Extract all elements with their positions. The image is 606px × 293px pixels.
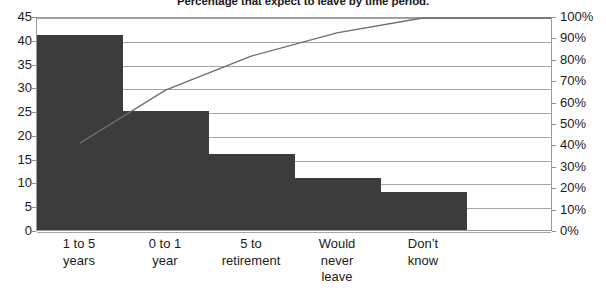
y-axis-left-tick-label: 20 — [18, 129, 32, 142]
y-axis-left-tick-label: 35 — [18, 58, 32, 71]
x-axis-category-label: Wouldneverleave — [294, 236, 380, 291]
y-axis-left-tick-label: 40 — [18, 34, 32, 47]
y-axis-right-tick — [552, 103, 556, 104]
y-axis-right-tick-label: 70% — [560, 74, 586, 87]
x-axis-category-label-line: leave — [296, 269, 378, 286]
x-axis-category-label-line: 0 to 1 — [124, 236, 206, 253]
x-axis-category-label-line: never — [296, 253, 378, 270]
x-axis-category-label — [466, 236, 552, 291]
y-axis-right-tick-label: 0% — [560, 224, 579, 237]
y-axis-left-tick-label: 0 — [25, 224, 32, 237]
y-axis-left-tick — [32, 136, 36, 137]
y-axis-left-tick — [32, 207, 36, 208]
y-axis-left-tick-label: 10 — [18, 176, 32, 189]
y-axis-right-tick-label: 80% — [560, 53, 586, 66]
y-axis-left-tick-label: 15 — [18, 153, 32, 166]
y-axis-right-tick — [552, 167, 556, 168]
y-axis-left-tick-label: 45 — [18, 10, 32, 23]
y-axis-right-tick-label: 60% — [560, 96, 586, 109]
bar — [37, 35, 123, 230]
y-axis-left-tick — [32, 183, 36, 184]
y-axis-right-tick-label: 20% — [560, 181, 586, 194]
y-axis-right-tick — [552, 38, 556, 39]
y-axis-left-tick-label: 30 — [18, 81, 32, 94]
x-axis-category-label-line: Would — [296, 236, 378, 253]
x-axis-category-label-line: Don’t — [382, 236, 464, 253]
y-axis-left-tick — [32, 112, 36, 113]
y-axis-right-tick — [552, 210, 556, 211]
x-axis-category-labels: 1 to 5years0 to 1year5 toretirementWould… — [36, 236, 552, 291]
y-axis-left-tick — [32, 160, 36, 161]
gridline — [37, 232, 551, 233]
y-axis-right-tick-label: 90% — [560, 31, 586, 44]
y-axis-right-tick — [552, 188, 556, 189]
x-axis-category-label-line: know — [382, 253, 464, 270]
x-axis-category-label: 0 to 1year — [122, 236, 208, 291]
y-axis-left-tick — [32, 17, 36, 18]
y-axis-right-tick-label: 100% — [560, 10, 593, 23]
y-axis-right-tick — [552, 60, 556, 61]
chart-title: Percentage that expect to leave by time … — [0, 0, 606, 7]
y-axis-left-tick — [32, 231, 36, 232]
y-axis-right-tick-label: 50% — [560, 117, 586, 130]
y-axis-right-tick — [552, 17, 556, 18]
x-axis-category-label: 5 toretirement — [208, 236, 294, 291]
y-axis-right-tick-label: 30% — [560, 160, 586, 173]
x-axis-category-label: Don’tknow — [380, 236, 466, 291]
x-axis-category-label-line: 1 to 5 — [38, 236, 120, 253]
x-axis-category-label: 1 to 5years — [36, 236, 122, 291]
y-axis-left-tick — [32, 41, 36, 42]
x-axis-category-label-line: retirement — [210, 253, 292, 270]
bar — [123, 111, 209, 230]
plot-area — [36, 17, 552, 231]
chart-container: Percentage that expect to leave by time … — [0, 0, 606, 293]
y-axis-left-tick-label: 5 — [25, 200, 32, 213]
y-axis-left-tick-label: 25 — [18, 105, 32, 118]
y-axis-right-tick-label: 10% — [560, 203, 586, 216]
y-axis-right-tick — [552, 81, 556, 82]
bar — [295, 178, 381, 230]
y-axis-right-tick — [552, 124, 556, 125]
x-axis-category-label-line: years — [38, 253, 120, 270]
y-axis-right-tick-label: 40% — [560, 138, 586, 151]
bar — [209, 154, 295, 230]
y-axis-left-tick — [32, 88, 36, 89]
y-axis-right-tick — [552, 231, 556, 232]
y-axis-left-tick — [32, 65, 36, 66]
y-axis-right-tick — [552, 145, 556, 146]
x-axis-category-label-line: year — [124, 253, 206, 270]
bar — [381, 192, 467, 230]
bar-series — [37, 18, 551, 230]
x-axis-category-label-line: 5 to — [210, 236, 292, 253]
